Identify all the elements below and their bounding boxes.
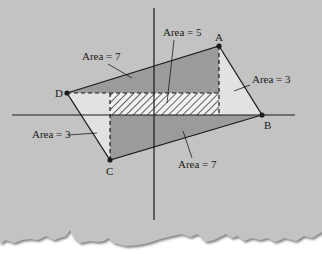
vertex-label-a: A — [215, 31, 223, 43]
label-area-left: Area = 3 — [32, 128, 71, 140]
vertex-label-c: C — [106, 165, 113, 177]
vertex-dot-d — [64, 90, 69, 95]
diagram-stage: Area = 7Area = 5Area = 3Area = 3Area = 7… — [0, 0, 322, 254]
label-area-right: Area = 3 — [252, 73, 291, 85]
parallelogram-area-diagram: Area = 7Area = 5Area = 3Area = 3Area = 7… — [0, 0, 322, 254]
label-area-lower-right: Area = 7 — [178, 158, 217, 170]
label-area-top-center: Area = 5 — [163, 26, 202, 38]
vertex-dot-c — [107, 157, 112, 162]
vertex-dot-a — [216, 43, 221, 48]
vertex-label-b: B — [264, 119, 271, 131]
hatched-rectangle-region — [110, 93, 219, 115]
label-area-upper-left: Area = 7 — [82, 50, 121, 62]
vertex-label-d: D — [55, 87, 63, 99]
vertex-dot-b — [259, 112, 264, 117]
